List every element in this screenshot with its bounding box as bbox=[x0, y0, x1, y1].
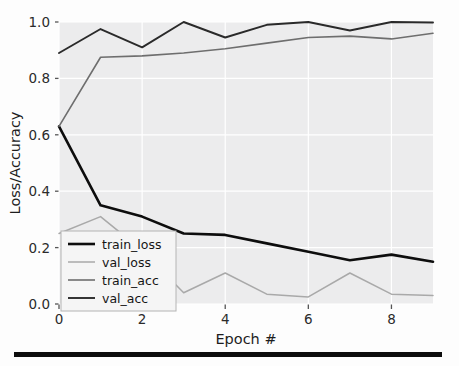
bottom-rule-divider bbox=[14, 352, 442, 357]
legend-label-train-loss: train_loss bbox=[102, 237, 162, 252]
legend-label-train-acc: train_acc bbox=[102, 273, 159, 288]
y-axis-title: Loss/Accuracy bbox=[7, 111, 23, 214]
xtick-label: 4 bbox=[221, 311, 230, 327]
ytick-label: 0.8 bbox=[29, 70, 50, 86]
chart-legend: train_lossval_losstrain_accval_acc bbox=[61, 231, 176, 311]
chart-canvas: 0.00.20.40.60.81.002468 Loss/AccuracyEpo… bbox=[0, 0, 459, 366]
xtick-label: 2 bbox=[138, 311, 147, 327]
legend-label-val-loss: val_loss bbox=[102, 255, 151, 270]
ytick-label: 0.0 bbox=[29, 296, 50, 312]
xtick-label: 8 bbox=[387, 311, 396, 327]
x-axis-title: Epoch # bbox=[215, 331, 276, 347]
ytick-label: 0.4 bbox=[29, 183, 50, 199]
ytick-label: 1.0 bbox=[29, 14, 50, 30]
legend-label-val-acc: val_acc bbox=[102, 291, 148, 306]
ytick-label: 0.2 bbox=[29, 240, 50, 256]
xtick-label: 0 bbox=[55, 311, 64, 327]
ytick-label: 0.6 bbox=[29, 127, 50, 143]
chart-figure: 0.00.20.40.60.81.002468 Loss/AccuracyEpo… bbox=[0, 0, 459, 366]
xtick-label: 6 bbox=[304, 311, 313, 327]
